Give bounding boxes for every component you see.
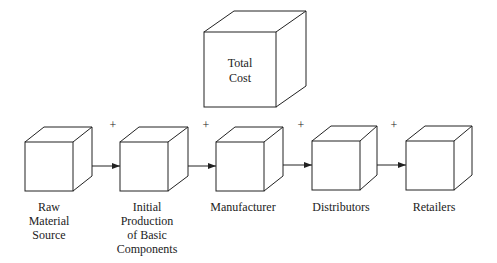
stage-label-initial-production: Initial Production of Basic Components xyxy=(117,200,178,256)
cube-initial-production xyxy=(120,127,188,191)
total-cost-cube xyxy=(204,11,306,107)
total-cost-line-2: Cost xyxy=(228,71,253,86)
label-line: Distributors xyxy=(312,200,369,214)
cube-raw-material xyxy=(25,127,92,191)
label-line: Source xyxy=(29,228,70,242)
total-cost-label: Total Cost xyxy=(228,56,253,86)
stage-label-raw-material: Raw Material Source xyxy=(29,200,70,242)
label-line: Raw xyxy=(29,200,70,214)
stage-label-manufacturer: Manufacturer xyxy=(210,200,275,214)
plus-sign-4: + xyxy=(391,119,398,131)
label-line: Production xyxy=(117,214,178,228)
label-line: Initial xyxy=(117,200,178,214)
stage-label-distributors: Distributors xyxy=(312,200,369,214)
cube-distributors xyxy=(312,126,377,190)
cube-retailers xyxy=(406,126,472,190)
label-line: Components xyxy=(117,242,178,256)
label-line: Manufacturer xyxy=(210,200,275,214)
label-line: Material xyxy=(29,214,70,228)
supply-chain-cost-diagram: Total Cost + + + + Raw Material Source I… xyxy=(0,0,497,263)
diagram-graphics xyxy=(0,0,497,263)
plus-sign-2: + xyxy=(203,119,210,131)
plus-sign-3: + xyxy=(298,119,305,131)
plus-sign-1: + xyxy=(110,119,117,131)
cube-manufacturer xyxy=(216,127,283,191)
total-cost-line-1: Total xyxy=(228,56,253,71)
label-line: of Basic xyxy=(117,228,178,242)
label-line: Retailers xyxy=(413,200,456,214)
stage-label-retailers: Retailers xyxy=(413,200,456,214)
